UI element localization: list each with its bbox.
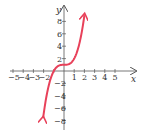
x-tick-label: 4 [102,73,107,82]
y-axis-label: y [55,5,62,15]
x-tick-label: −2 [39,73,51,82]
y-tick-label: −6 [54,104,66,113]
y-tick-label: −4 [54,92,66,101]
x-tick-label: 5 [113,73,118,82]
x-axis-label: x [131,74,136,84]
y-tick-label: 4 [57,42,62,51]
y-tick-label: −8 [54,117,66,126]
x-tick-label: 3 [92,73,97,82]
x-tick-label: 1 [72,73,77,82]
y-tick-label: 8 [57,17,62,26]
axes [10,6,136,130]
cubic-function-chart: xy−5−4−3−212345−8−6−4−22468 [0,0,148,134]
y-tick-label: −2 [54,79,66,88]
tick-labels: xy−5−4−3−212345−8−6−4−22468 [8,5,136,126]
x-tick-label: 2 [82,73,87,82]
y-tick-label: 6 [57,30,62,39]
y-tick-label: 2 [57,55,62,64]
